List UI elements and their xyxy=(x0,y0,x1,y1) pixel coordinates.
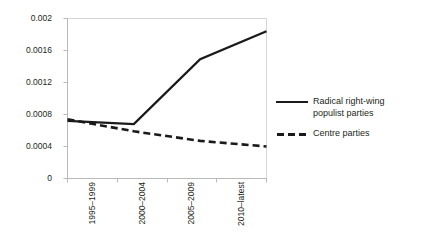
line-chart: 0 0.0004 0.0008 0.0012 0.0016 0.002 1995… xyxy=(0,0,422,240)
legend-label-line1: Radical right-wing xyxy=(313,96,385,106)
legend-label-line1: Centre parties xyxy=(313,128,370,138)
x-tick-label: 2010–latest xyxy=(237,182,246,226)
legend-label: Radical right-wing populist parties xyxy=(313,96,385,119)
x-tick-label: 2000–2004 xyxy=(138,182,147,225)
legend-label: Centre parties xyxy=(313,128,370,140)
legend-dashed-line-icon xyxy=(276,128,308,140)
legend-label-line2: populist parties xyxy=(313,108,374,118)
legend-solid-line-icon xyxy=(276,96,308,108)
x-tick-label: 1995–1999 xyxy=(88,182,97,225)
legend-item-radical-right-wing-populist-parties: Radical right-wing populist parties xyxy=(276,96,422,119)
x-tick-label: 2005–2009 xyxy=(187,182,196,225)
chart-legend: Radical right-wing populist parties Cent… xyxy=(276,96,422,149)
legend-item-centre-parties: Centre parties xyxy=(276,128,422,140)
